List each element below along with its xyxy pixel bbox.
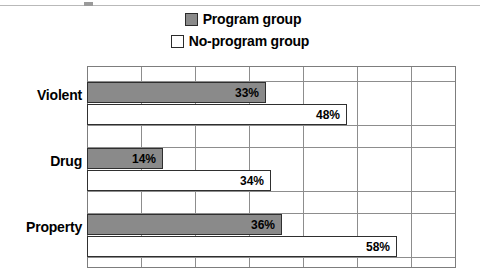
- bar-value-property-no-program: 58%: [366, 240, 396, 254]
- row-separator-bottom: [88, 257, 455, 258]
- legend-item-no-program-group: No-program group: [0, 30, 480, 52]
- bar-drug-no-program-group: 34%: [87, 170, 271, 191]
- row-separator-3: [88, 191, 455, 192]
- bar-drug-program-group: 14%: [87, 148, 163, 169]
- row-separator-1: [88, 125, 455, 126]
- category-label-property: Property: [0, 219, 82, 235]
- category-label-violent: Violent: [0, 87, 82, 103]
- legend-swatch-hollow-square-icon: [171, 35, 184, 48]
- plot-area: 33% 48% 14% 34% 36% 58%: [87, 66, 456, 268]
- bar-chart: Violent Drug Property 33% 48% 14% 34%: [0, 60, 480, 276]
- bar-property-no-program-group: 58%: [87, 236, 397, 257]
- bar-value-drug-program: 14%: [132, 152, 162, 166]
- category-label-drug: Drug: [0, 153, 82, 169]
- bar-value-violent-program: 33%: [235, 86, 265, 100]
- scan-artifact-line: [0, 5, 480, 6]
- bar-value-violent-no-program: 48%: [316, 108, 346, 122]
- gridline-60: [411, 67, 412, 267]
- bar-violent-program-group: 33%: [87, 82, 266, 103]
- legend-label-program-group: Program group: [203, 11, 302, 27]
- bar-value-drug-no-program: 34%: [240, 174, 270, 188]
- legend-swatch-filled-square-icon: [185, 13, 198, 26]
- legend-label-no-program-group: No-program group: [189, 33, 309, 49]
- bar-property-program-group: 36%: [87, 214, 282, 235]
- legend-item-program-group: Program group: [0, 8, 480, 30]
- bar-value-property-program: 36%: [251, 218, 281, 232]
- scan-artifact-mark: [84, 2, 93, 6]
- bar-violent-no-program-group: 48%: [87, 104, 347, 125]
- chart-legend: Program group No-program group: [0, 8, 480, 52]
